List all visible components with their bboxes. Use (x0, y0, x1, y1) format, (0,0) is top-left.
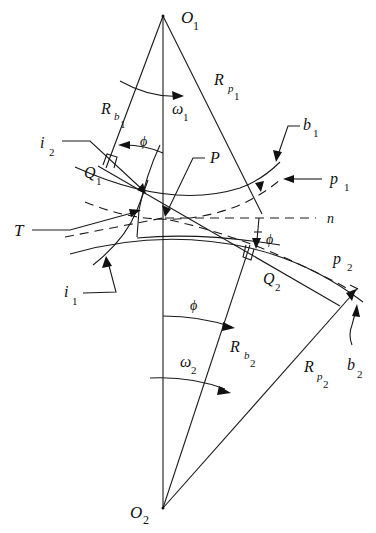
base-radius-rb2-line (163, 245, 250, 508)
svg-text:b: b (303, 116, 311, 133)
p2-tick (350, 285, 358, 289)
svg-text:R: R (213, 71, 224, 88)
svg-text:2: 2 (357, 368, 363, 380)
svg-text:1: 1 (193, 19, 199, 33)
pitch-radius-rp2-line (163, 288, 358, 508)
svg-text:2: 2 (143, 513, 149, 527)
svg-text:2: 2 (323, 378, 329, 390)
label-omega2: ω 2 (180, 353, 197, 376)
svg-text:Q: Q (84, 164, 96, 181)
svg-text:2: 2 (191, 364, 197, 376)
svg-text:1: 1 (72, 295, 78, 307)
svg-text:2: 2 (250, 357, 256, 369)
pitch-circle-p1 (85, 180, 280, 219)
label-rb1: R b 1 (100, 100, 126, 130)
svg-text:i: i (40, 134, 44, 151)
svg-text:O: O (181, 8, 193, 27)
omega2-arc (150, 378, 225, 389)
svg-text:R: R (229, 338, 240, 355)
phi-bottom-arrowhead (222, 322, 235, 331)
i1-arrowhead (102, 256, 112, 268)
i1-leader (83, 262, 116, 293)
label-rb2: R b 2 (229, 338, 256, 369)
b1-leader (278, 126, 300, 155)
svg-text:i: i (64, 283, 68, 300)
omega2-arrowhead (217, 386, 231, 395)
svg-text:ω: ω (180, 353, 191, 370)
svg-text:1: 1 (313, 127, 319, 139)
label-b1: b 1 (303, 116, 319, 139)
svg-text:O: O (130, 503, 142, 522)
svg-text:1: 1 (344, 181, 350, 193)
rp1-arrowhead (255, 181, 264, 192)
svg-text:p: p (332, 250, 341, 268)
svg-text:1: 1 (234, 90, 240, 102)
b1-arrowhead (273, 150, 282, 162)
omega1-arc (120, 81, 180, 96)
line-of-action (98, 166, 340, 306)
label-phi-top: ϕ (140, 134, 147, 149)
label-i1: i 1 (64, 283, 78, 307)
omega1-arrowhead (172, 91, 184, 100)
b2-arrowhead (352, 304, 360, 317)
svg-text:Q: Q (263, 270, 275, 287)
svg-text:p: p (316, 370, 323, 382)
svg-text:p: p (227, 82, 234, 94)
svg-text:ω: ω (172, 100, 183, 117)
svg-text:b: b (347, 356, 355, 373)
o2-point (162, 507, 165, 510)
label-rp2: R p 2 (303, 358, 329, 390)
label-q2: Q 2 (263, 270, 281, 293)
label-phi-bottom: ϕ (190, 298, 197, 313)
label-q1: Q 1 (84, 164, 102, 187)
svg-text:R: R (100, 100, 111, 117)
svg-text:R: R (303, 358, 314, 375)
label-phi-right: ϕ (266, 232, 273, 247)
label-t: T (14, 221, 25, 240)
phi-top-arrowhead (118, 141, 130, 149)
p1-arrowhead (283, 175, 294, 183)
label-n: n (327, 211, 334, 226)
o1-point (162, 15, 165, 18)
i2-leader (62, 141, 145, 192)
label-p1: p 1 (329, 170, 350, 193)
label-o1: O 1 (181, 8, 199, 33)
label-omega1: ω 1 (172, 100, 189, 123)
svg-text:2: 2 (49, 146, 55, 158)
p-leader (168, 158, 205, 210)
svg-text:2: 2 (275, 281, 281, 293)
label-b2: b 2 (347, 356, 363, 380)
svg-text:1: 1 (183, 111, 189, 123)
label-i2: i 2 (40, 134, 55, 158)
gear-geometry-diagram: O 1 O 2 R p 1 R b 1 ω 1 ϕ i 2 Q 1 P b 1 … (0, 0, 376, 533)
svg-text:p: p (329, 170, 338, 188)
phi-bottom-arc (163, 316, 232, 327)
label-p2: p 2 (332, 250, 353, 273)
phi-right-leader (257, 218, 259, 240)
svg-text:1: 1 (96, 175, 102, 187)
pitch-circle-p2 (170, 220, 350, 290)
label-o2: O 2 (130, 503, 149, 527)
label-rp1: R p 1 (213, 71, 240, 102)
svg-text:1: 1 (120, 118, 126, 130)
svg-text:2: 2 (347, 261, 353, 273)
label-p: P (209, 149, 220, 166)
